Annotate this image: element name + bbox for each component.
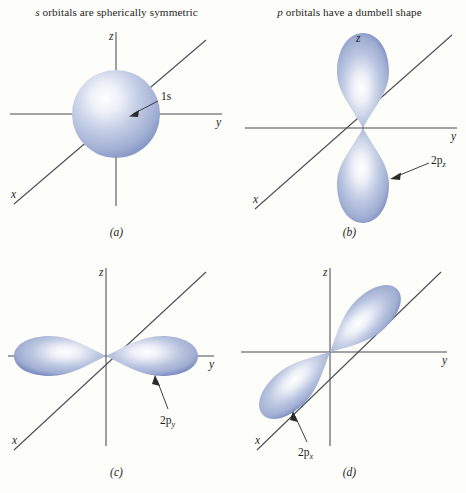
x-axis-line	[257, 272, 441, 450]
orbital-lobe-2py-left	[14, 336, 106, 376]
x-axis-label: x	[11, 434, 18, 446]
orbital-lobe-2pz-lower	[337, 128, 389, 223]
panel-b-2pz-orbital: p orbitals have a dumbell shape	[233, 0, 466, 250]
y-axis-label: y	[208, 358, 215, 371]
panel-caption-c: (c)	[0, 466, 233, 478]
z-axis-label: z	[322, 266, 328, 278]
z-axis-label: z	[108, 30, 114, 42]
y-axis-label: y	[441, 354, 448, 367]
x-axis-label: x	[252, 193, 259, 205]
leader-arrow-2pz	[390, 173, 401, 181]
panel-caption-b: (b)	[233, 226, 466, 238]
z-axis-label: z	[355, 32, 361, 44]
orbital-lobe-2pz-upper	[337, 33, 389, 128]
x-axis-label: x	[10, 188, 17, 200]
panel-caption-d: (d)	[233, 466, 466, 478]
panel-caption-a: (a)	[0, 226, 233, 238]
orbital-label-2py: 2py	[160, 414, 176, 429]
orbital-lobe-2px-upper	[316, 275, 411, 367]
orbital-figure: s orbitals are spherically symmetric	[0, 0, 466, 493]
z-axis-label: z	[98, 266, 104, 278]
y-axis-label: y	[450, 130, 457, 143]
orbital-lobe-2py-right	[106, 336, 198, 376]
panel-c-2py-orbital: z y x 2py (c)	[0, 250, 233, 493]
orbital-label-2pz: 2pz	[431, 154, 447, 169]
orbital-label-1s: 1s	[161, 90, 172, 102]
x-axis-label: x	[254, 434, 261, 446]
panel-a-1s-orbital: s orbitals are spherically symmetric	[0, 0, 233, 250]
orbital-sphere-1s	[72, 70, 160, 158]
orbital-lobe-2px-lower	[249, 337, 344, 429]
y-axis-label: y	[215, 116, 222, 129]
orbital-label-2px: 2px	[298, 446, 314, 461]
panel-d-2px-orbital: z y x 2px (d)	[233, 250, 466, 493]
leader-arrow-2py	[152, 375, 160, 386]
